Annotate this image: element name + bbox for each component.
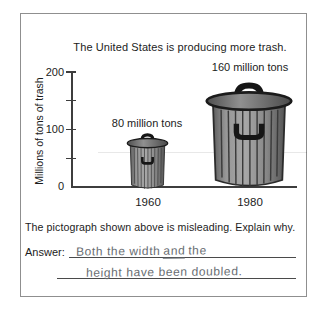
tick-label-0: 0 xyxy=(38,180,64,192)
handwritten-text: the xyxy=(188,243,207,257)
tick-200 xyxy=(66,71,76,73)
chart-title: The United States is producing more tras… xyxy=(55,41,305,53)
tick-50 xyxy=(66,158,76,160)
question-text: The pictograph shown above is misleading… xyxy=(25,221,308,233)
value-label-1960: 80 million tons xyxy=(97,117,197,129)
handwritten-answer-line-1: Both the widthandthe xyxy=(76,243,207,258)
year-label-1960: 1960 xyxy=(108,196,188,208)
tick-150 xyxy=(66,100,76,102)
answer-label: Answer: xyxy=(25,246,65,258)
tick-100 xyxy=(66,129,76,131)
tick-label-100: 100 xyxy=(38,123,64,135)
trash-can-large-icon xyxy=(204,82,294,193)
handwritten-answer-line-2: height have been doubled. xyxy=(86,264,243,280)
value-label-1980: 160 million tons xyxy=(194,61,306,73)
handwritten-text: Both the width xyxy=(76,244,161,259)
year-label-1980: 1980 xyxy=(210,196,290,208)
trash-can-small-icon xyxy=(126,133,169,192)
handwritten-underlined-word: and xyxy=(163,244,185,259)
tick-label-200: 200 xyxy=(38,66,64,78)
page-root: The United States is producing more tras… xyxy=(0,0,330,316)
